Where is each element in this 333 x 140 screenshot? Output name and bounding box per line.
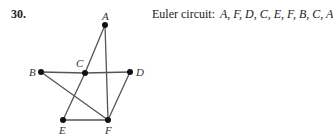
vertex-label-a: A — [101, 10, 109, 22]
vertex-label-e: E — [58, 124, 66, 136]
vertex-d — [127, 69, 133, 75]
vertex-c — [82, 70, 88, 76]
edge-a-c — [85, 25, 105, 73]
vertex-b — [38, 69, 44, 75]
vertex-label-d: D — [135, 66, 144, 78]
edge-d-f — [108, 72, 130, 120]
edge-c-e — [63, 73, 85, 120]
vertex-f — [105, 117, 111, 123]
vertex-a — [102, 22, 108, 28]
vertex-e — [60, 117, 66, 123]
edge-b-f — [41, 72, 108, 120]
edge-c-d — [85, 72, 130, 73]
vertex-label-f: F — [104, 124, 112, 136]
vertex-label-c: C — [76, 57, 84, 69]
edge-b-c — [41, 72, 85, 73]
vertex-label-b: B — [29, 66, 36, 78]
